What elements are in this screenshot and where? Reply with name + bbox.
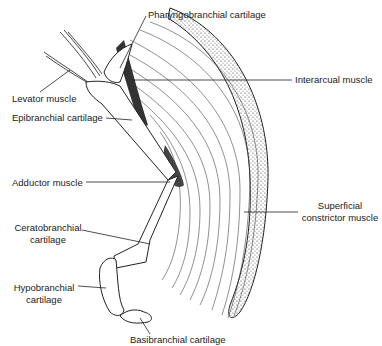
label-superficial-constrictor: Superficial constrictor muscle (298, 200, 382, 224)
label-interarcual: Interarcual muscle (295, 74, 373, 86)
label-hypobranchial: Hypobranchial cartilage (10, 282, 78, 306)
label-hypobranchial-line2: cartilage (10, 294, 78, 306)
diagram-canvas: Pharyngobranchial cartilage Levator musc… (0, 0, 382, 346)
label-adductor: Adductor muscle (12, 177, 83, 189)
label-pharyngobranchial: Pharyngobranchial cartilage (148, 9, 266, 21)
label-superficial-line1: Superficial (298, 200, 382, 212)
label-levator: Levator muscle (12, 93, 76, 105)
ceratobranchial-shape (114, 176, 178, 268)
label-ceratobranchial: Ceratobranchial cartilage (12, 222, 84, 246)
label-basibranchial: Basibranchial cartilage (130, 334, 226, 346)
label-ceratobranchial-line2: cartilage (12, 234, 84, 246)
label-ceratobranchial-line1: Ceratobranchial (12, 222, 84, 234)
label-superficial-line2: constrictor muscle (298, 212, 382, 224)
levator-fibers (44, 30, 102, 84)
stippled-fascia (168, 8, 268, 318)
label-hypobranchial-line1: Hypobranchial (10, 282, 78, 294)
label-epibranchial: Epibranchial cartilage (12, 112, 103, 124)
basibranchial-shape (120, 310, 151, 323)
